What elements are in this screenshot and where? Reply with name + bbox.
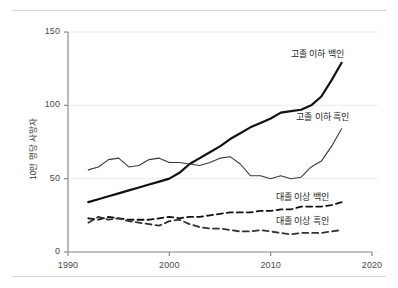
x-tick-label-2010: 2010 <box>251 260 291 270</box>
series-label-1: 고졸 이하 흑인 <box>296 110 349 123</box>
series-label-0: 고졸 이하 백인 <box>291 47 344 60</box>
y-tick-label-150: 150 <box>32 26 60 36</box>
series-label-2: 대졸 이상 백인 <box>276 190 329 203</box>
y-axis-title: 10만 명당 사망자 <box>26 118 38 180</box>
line-chart-plot <box>0 0 398 288</box>
series-label-3: 대졸 이상 흑인 <box>276 214 329 227</box>
x-tick-label-2000: 2000 <box>149 260 189 270</box>
y-tick-label-0: 0 <box>32 246 60 256</box>
x-tick-label-2020: 2020 <box>352 260 392 270</box>
series-line-0 <box>88 63 341 202</box>
series-line-1 <box>88 129 341 179</box>
chart-figure: 050100150199020002010202010만 명당 사망자고졸 이하… <box>0 0 398 288</box>
y-tick-label-100: 100 <box>32 99 60 109</box>
x-tick-label-1990: 1990 <box>48 260 88 270</box>
